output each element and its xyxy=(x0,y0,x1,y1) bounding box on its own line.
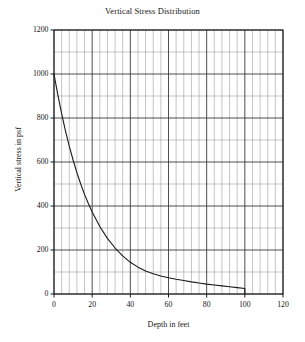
y-tick-label: 800 xyxy=(15,113,49,122)
x-tick-label: 80 xyxy=(192,300,222,309)
y-tick-label: 600 xyxy=(15,157,49,166)
y-tick-label: 0 xyxy=(15,289,49,298)
y-tick-label: 1000 xyxy=(15,69,49,78)
y-tick-label: 200 xyxy=(15,245,49,254)
y-tick-label: 400 xyxy=(15,201,49,210)
x-tick-label: 20 xyxy=(77,300,107,309)
x-tick-label: 60 xyxy=(154,300,184,309)
axis-ticks xyxy=(51,30,284,298)
x-tick-label: 0 xyxy=(39,300,69,309)
x-tick-label: 100 xyxy=(230,300,260,309)
y-tick-label: 1200 xyxy=(15,25,49,34)
major-gridlines xyxy=(54,30,283,294)
x-tick-label: 120 xyxy=(268,300,298,309)
x-tick-label: 40 xyxy=(115,300,145,309)
chart-figure: Vertical Stress Distribution Vertical st… xyxy=(0,0,305,342)
